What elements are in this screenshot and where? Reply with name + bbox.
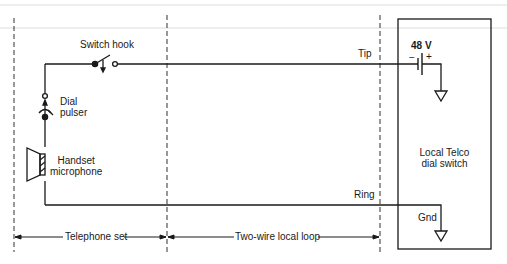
ring-label: Ring: [354, 189, 375, 200]
local-loop-region-label: Two-wire local loop: [235, 231, 320, 242]
dial-pulser-label-line2: pulser: [60, 107, 87, 118]
battery-minus-label: −: [409, 52, 415, 63]
telco-label-line1: Local Telco: [398, 147, 491, 158]
telephone-set-region-label: Telephone set: [65, 231, 127, 242]
handset-microphone-icon: [27, 148, 45, 181]
switch-hook-label: Switch hook: [80, 39, 134, 50]
handset-microphone-label: Handset microphone: [50, 155, 102, 177]
ring-wire: [45, 205, 441, 231]
handset-label-line1: Handset: [50, 155, 102, 166]
dial-pulser-label: Dial pulser: [60, 96, 87, 118]
dial-pulser-label-line1: Dial: [60, 96, 87, 107]
tip-label: Tip: [358, 48, 372, 59]
telco-switch-label: Local Telco dial switch: [398, 147, 491, 169]
scan-band: [0, 27, 507, 29]
telco-label-line2: dial switch: [398, 158, 491, 169]
voltage-label: 48 V: [411, 40, 432, 51]
gnd-label: Gnd: [418, 212, 437, 223]
battery-plus-label: +: [426, 51, 432, 62]
scan-band: [0, 4, 507, 6]
ground-icon: [435, 231, 447, 241]
ground-icon: [435, 91, 447, 101]
switch-hook-icon: [92, 55, 117, 72]
dial-pulser-icon: [39, 94, 53, 120]
handset-label-line2: microphone: [50, 166, 102, 177]
